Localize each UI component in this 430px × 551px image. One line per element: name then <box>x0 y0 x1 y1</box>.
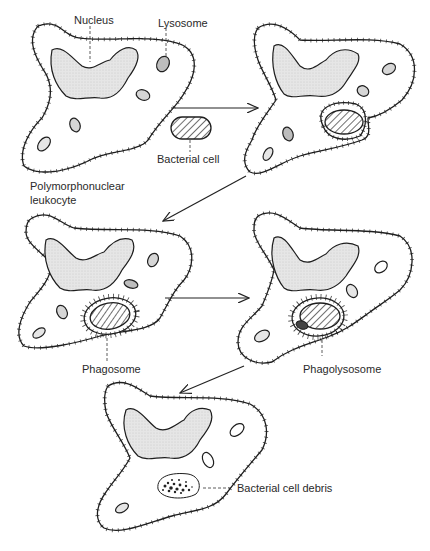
leukocyte-stage-2 <box>245 24 415 173</box>
label-phagolysosome: Phagolysosome <box>303 363 381 375</box>
bacterial-cell: Bacterial cell <box>157 117 219 165</box>
label-bacterial-debris: Bacterial cell debris <box>237 482 333 494</box>
label-phagosome: Phagosome <box>82 363 141 375</box>
leukocyte-stage-1: Nucleus Lysosome <box>22 14 207 172</box>
leukocyte-stage-5: Bacterial cell debris <box>97 383 332 531</box>
label-cell-type-line2: leukocyte <box>30 194 76 206</box>
arrow-stage2-to-3 <box>163 176 246 221</box>
leukocyte-stage-3: Phagosome <box>19 215 192 375</box>
label-lysosome: Lysosome <box>158 17 208 29</box>
arrow-stage4-to-5 <box>180 366 244 393</box>
phagocytosis-diagram: Nucleus Lysosome Bacterial cell Polymorp… <box>0 0 430 551</box>
label-nucleus: Nucleus <box>74 14 114 26</box>
bacterium-being-engulfed <box>325 110 363 134</box>
label-bacterial-cell: Bacterial cell <box>157 153 219 165</box>
leukocyte-stage-4: Phagolysosome <box>238 213 412 375</box>
label-cell-type-line1: Polymorphonuclear <box>30 180 125 192</box>
